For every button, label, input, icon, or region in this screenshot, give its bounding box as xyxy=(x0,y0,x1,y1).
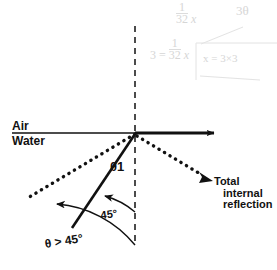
label-air: Air xyxy=(12,120,29,133)
ghost-lhs: 3 = xyxy=(150,48,166,62)
ghost-denominator-2: 32 xyxy=(169,50,181,61)
ghost-x-2: x xyxy=(184,48,189,62)
label-theta1: θ1 xyxy=(110,160,124,174)
optics-diagram: Air Water θ1 45° θ > 45° Total internal … xyxy=(0,0,277,270)
ghost-x-1: x xyxy=(191,12,196,26)
tir-line-3: reflection xyxy=(214,199,273,211)
ray-dotted-reflected xyxy=(137,136,213,183)
ghost-denominator-1: 32 xyxy=(176,14,188,25)
label-angle-45: 45° xyxy=(100,208,118,221)
label-total-internal-reflection: Total internal reflection xyxy=(214,176,273,211)
ghost-note-boxed: x = 3×3 xyxy=(203,52,237,64)
ghost-note-fraction-top: 1 32 x xyxy=(176,2,196,27)
ghost-note-3theta: 3θ xyxy=(236,3,249,19)
tir-line-1: Total xyxy=(214,176,273,188)
ghost-note-equation: 3 = 1 32 x xyxy=(150,38,189,63)
label-water: Water xyxy=(12,135,45,148)
